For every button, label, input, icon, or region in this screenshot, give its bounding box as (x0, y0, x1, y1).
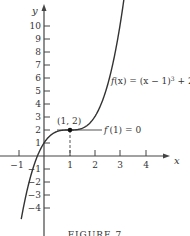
svg-text:8: 8 (35, 47, 41, 57)
svg-text:−1: −1 (10, 160, 23, 170)
svg-text:3: 3 (117, 160, 123, 170)
derivative-label: f′(1) = 0 (103, 125, 141, 135)
point-marker (68, 128, 73, 133)
point-label: (1, 2) (57, 116, 81, 126)
x-axis-label: x (174, 155, 180, 166)
function-graph: y x 10 9 8 7 6 5 4 3 2 1 −1 −2 −3 −4 (0, 0, 190, 236)
svg-text:1: 1 (67, 160, 73, 170)
y-axis-arrow-icon (42, 4, 47, 11)
y-ticks (44, 26, 50, 208)
svg-text:4: 4 (143, 160, 149, 170)
svg-text:10: 10 (30, 21, 42, 31)
figure-caption: FIGURE 7 (68, 230, 123, 236)
svg-text:−3: −3 (28, 190, 42, 200)
svg-text:9: 9 (35, 34, 41, 44)
svg-text:2: 2 (92, 160, 98, 170)
svg-text:7: 7 (35, 60, 41, 70)
svg-text:1: 1 (35, 138, 41, 148)
function-label: f(x) = (x − 1)3 + 2 (110, 75, 190, 87)
svg-text:3: 3 (35, 112, 41, 122)
y-tick-labels: 10 9 8 7 6 5 4 3 2 1 −1 −2 −3 −4 (28, 21, 42, 213)
svg-text:6: 6 (35, 73, 41, 83)
svg-text:2: 2 (35, 125, 41, 135)
y-axis-label: y (31, 5, 38, 16)
svg-text:4: 4 (35, 99, 41, 109)
svg-text:5: 5 (35, 86, 41, 96)
svg-text:−4: −4 (28, 203, 42, 213)
x-axis-arrow-icon (163, 154, 170, 159)
